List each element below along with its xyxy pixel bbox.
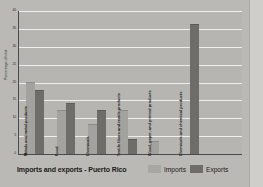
y-tick-label: 10 [12, 117, 16, 120]
category-label: Textile fibers and textile products [116, 93, 120, 156]
y-tick-label: 30 [12, 45, 16, 48]
legend-label-exports: Exports [206, 166, 228, 173]
bar-group [88, 11, 106, 154]
chart-title: Imports and exports - Puerto Rico [17, 166, 127, 174]
category-label: Food [54, 146, 58, 156]
y-axis-title: Percentage of total [5, 34, 9, 96]
right-edge-divider [249, 0, 250, 187]
bar-group [26, 11, 44, 154]
bar-exports [128, 139, 137, 154]
bars-container: Metals and metal productsFoodChemicalsTe… [19, 11, 242, 154]
bar-exports [66, 103, 75, 154]
category-label: Wood, paper, and printed products [147, 90, 151, 156]
bar-exports [190, 24, 199, 154]
legend-swatch-exports-icon [190, 165, 203, 173]
y-tick-label: 5 [14, 134, 16, 137]
y-tick-label: 35 [12, 27, 16, 30]
y-tick-label: 40 [12, 9, 16, 12]
bar-group [150, 11, 168, 154]
legend-label-imports: Imports [164, 166, 186, 173]
legend: Imports Exports [148, 165, 228, 173]
plot-area: Metals and metal productsFoodChemicalsTe… [18, 11, 242, 155]
category-label: Chemicals and chemical products [178, 92, 182, 157]
bar-exports [97, 110, 106, 154]
bar-group [119, 11, 137, 154]
legend-swatch-imports-icon [148, 165, 161, 173]
legend-item-imports: Imports [148, 165, 186, 173]
y-tick-label: 0 [14, 152, 16, 155]
y-tick-label: 25 [12, 63, 16, 66]
chart-footer: Imports and exports - Puerto Rico Import… [0, 158, 249, 187]
category-label: Metals and metal products [23, 106, 27, 156]
legend-item-exports: Exports [190, 165, 228, 173]
bar-exports [35, 90, 44, 154]
category-label: Chemicals [85, 136, 89, 156]
bar-group [181, 11, 199, 154]
chart-root: Percentage of total 0510152025303540 Met… [0, 0, 263, 187]
y-axis: Percentage of total 0510152025303540 [0, 11, 18, 154]
right-edge-strip [249, 0, 263, 187]
y-tick-label: 15 [12, 99, 16, 102]
y-tick-label: 20 [12, 81, 16, 84]
bar-group [57, 11, 75, 154]
